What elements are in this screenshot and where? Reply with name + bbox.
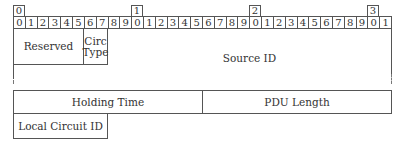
- field-holding-time-label: Holding Time: [72, 97, 144, 108]
- field-circ-type: Circ Type: [83, 28, 108, 65]
- field-pdu-length-label: PDU Length: [264, 97, 329, 108]
- source-id-left-border: [13, 65, 14, 79]
- field-local-circuit-id-label: Local Circuit ID: [18, 121, 103, 132]
- source-id-right-border: [391, 28, 392, 74]
- field-local-circuit-id: Local Circuit ID: [13, 113, 108, 139]
- field-holding-time: Holding Time: [13, 90, 203, 114]
- field-reserved-label: Reserved: [24, 41, 74, 52]
- field-pdu-length: PDU Length: [202, 90, 392, 114]
- field-source-id-label: Source ID: [223, 53, 276, 64]
- field-source-id: Source ID: [108, 48, 391, 68]
- field-circ-type-line2: Type: [83, 47, 109, 58]
- source-id-right-dash: [391, 74, 392, 84]
- field-circ-type-line1: Circ: [84, 36, 106, 47]
- source-id-left-dash: [13, 80, 14, 84]
- field-reserved: Reserved: [13, 28, 84, 65]
